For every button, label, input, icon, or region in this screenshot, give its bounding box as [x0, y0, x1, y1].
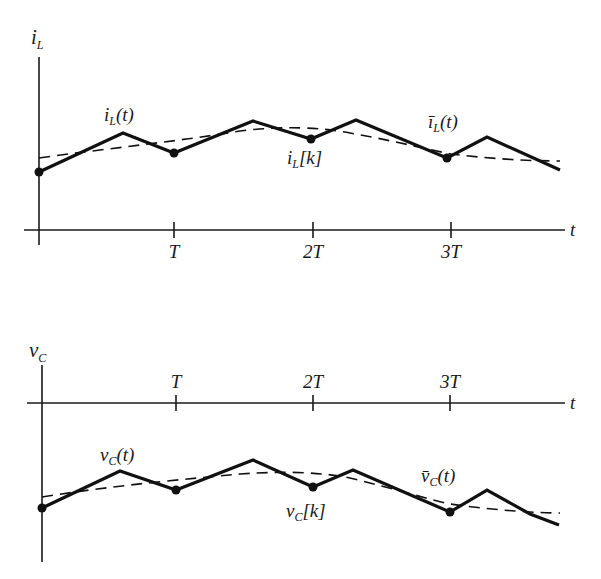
bottom-tick-label-3T: 3T	[439, 371, 462, 392]
bottom-label-sampled: vC[k]	[286, 500, 326, 524]
top-tick-label-3T: 3T	[440, 241, 463, 262]
bottom-tick-label-T: T	[171, 371, 183, 392]
bottom-sample-dot-3	[446, 508, 455, 517]
top-label-sampled: iL[k]	[287, 147, 322, 171]
top-panel: iL t T 2T 3T iL(t) iL[k] īL(t)	[24, 25, 576, 262]
bottom-panel: vC t T 2T 3T vC(t) vC[k] v̄C(t)	[27, 338, 576, 562]
figure-canvas: iL t T 2T 3T iL(t) iL[k] īL(t) vC t T	[0, 0, 601, 579]
top-sample-dot-0	[35, 168, 44, 177]
bottom-tick-label-2T: 2T	[303, 371, 325, 392]
bottom-sample-dot-0	[38, 504, 47, 513]
top-label-actual: iL(t)	[104, 104, 134, 128]
top-tick-label-T: T	[169, 241, 181, 262]
top-tick-label-2T: 2T	[303, 241, 325, 262]
top-sample-dot-3	[443, 154, 452, 163]
bottom-label-actual: vC(t)	[100, 444, 134, 468]
bottom-sample-dot-2	[309, 483, 318, 492]
top-sample-dot-1	[170, 149, 179, 158]
top-sample-dot-2	[307, 135, 316, 144]
top-label-average: īL(t)	[428, 111, 458, 135]
bottom-sample-dot-1	[172, 486, 181, 495]
bottom-x-axis-label: t	[570, 392, 576, 413]
bottom-label-average: v̄C(t)	[421, 465, 455, 489]
top-x-axis-label: t	[570, 219, 576, 240]
top-y-axis-label: iL	[31, 25, 44, 52]
bottom-y-axis-label: vC	[29, 338, 47, 365]
